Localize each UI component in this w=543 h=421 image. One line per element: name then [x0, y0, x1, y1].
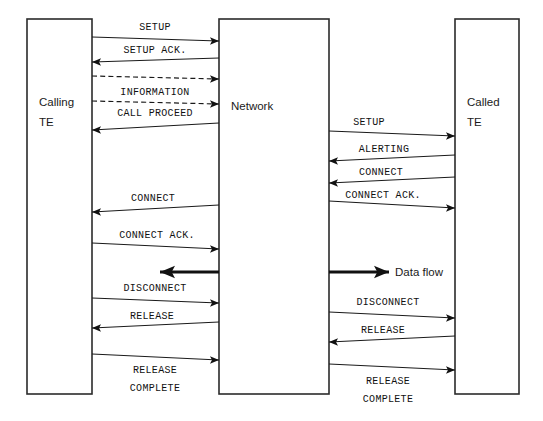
participant-label2-called: TE — [467, 116, 482, 128]
participant-calling: CallingTE — [27, 19, 92, 394]
message-label-m14: RELEASE — [130, 311, 174, 322]
message-line-m20 — [329, 364, 455, 370]
message-m16: RELEASE — [133, 365, 177, 376]
message-m19: RELEASE — [329, 325, 455, 346]
message-m7: SETUP — [329, 117, 455, 140]
message-label-m2: SETUP ACK. — [123, 45, 186, 56]
message-label-m16: RELEASE — [133, 365, 177, 376]
message-m8: ALERTING — [329, 144, 455, 165]
message-label-m10: CONNECT — [131, 193, 175, 204]
message-m4: INFORMATION — [120, 87, 189, 98]
participant-network: Network — [219, 19, 329, 394]
message-label-m4: INFORMATION — [120, 87, 189, 98]
participant-label2-calling: TE — [39, 116, 54, 128]
message-line-m19 — [329, 336, 455, 342]
message-line-m6 — [92, 123, 219, 130]
message-label-m12: CONNECT ACK. — [119, 230, 195, 241]
participant-label-called: Called — [467, 96, 500, 108]
message-label-m18: DISCONNECT — [356, 297, 419, 308]
message-line-m14 — [92, 322, 219, 328]
message-label-m17: COMPLETE — [130, 383, 180, 394]
message-m2: SETUP ACK. — [92, 45, 219, 66]
message-m11: CONNECT ACK. — [329, 190, 455, 212]
message-line-m13 — [92, 298, 219, 303]
message-line-m2 — [92, 58, 219, 62]
message-line-m1 — [92, 37, 219, 41]
message-m20 — [329, 364, 455, 374]
message-m12: CONNECT ACK. — [92, 230, 219, 253]
message-label-m11: CONNECT ACK. — [345, 190, 421, 201]
message-m1: SETUP — [92, 22, 219, 45]
message-line-m7 — [329, 131, 455, 136]
participant-boxes-layer: CallingTENetworkCalledTE — [27, 19, 519, 394]
message-label-m13: DISCONNECT — [123, 283, 186, 294]
participant-called: CalledTE — [455, 19, 519, 394]
participant-label-network: Network — [231, 100, 273, 112]
message-label-m22: COMPLETE — [363, 394, 413, 405]
message-m21: RELEASE — [366, 376, 410, 387]
participant-box-called — [455, 19, 519, 394]
message-m15 — [92, 354, 219, 364]
message-label-m6: CALL PROCEED — [117, 108, 193, 119]
message-label-m8: ALERTING — [359, 144, 409, 155]
message-m18: DISCONNECT — [329, 297, 455, 322]
message-label-m7: SETUP — [353, 117, 385, 128]
message-label-m19: RELEASE — [361, 325, 405, 336]
message-m6: CALL PROCEED — [92, 108, 219, 134]
message-line-m3 — [92, 76, 219, 79]
message-m9: CONNECT — [329, 167, 455, 187]
call-flow-diagram: CallingTENetworkCalledTE SETUPSETUP ACK.… — [0, 0, 543, 421]
participant-box-calling — [27, 19, 92, 394]
message-m3 — [92, 75, 219, 83]
data-flow-df-left — [160, 266, 219, 279]
message-m22: COMPLETE — [363, 394, 413, 405]
message-label-m1: SETUP — [139, 22, 171, 33]
message-line-m12 — [92, 243, 219, 249]
message-m17: COMPLETE — [130, 383, 180, 394]
message-m13: DISCONNECT — [92, 283, 219, 307]
message-m10: CONNECT — [92, 193, 219, 216]
message-line-m18 — [329, 312, 455, 318]
message-line-m10 — [92, 205, 219, 212]
message-label-m21: RELEASE — [366, 376, 410, 387]
message-line-m8 — [329, 155, 455, 161]
data-flow-df-right: Data flow — [329, 266, 444, 279]
message-line-m5 — [92, 101, 219, 104]
data-flow-label: Data flow — [395, 266, 444, 278]
sequence-diagram-canvas: CallingTENetworkCalledTE SETUPSETUP ACK.… — [0, 0, 543, 421]
message-line-m11 — [329, 201, 455, 208]
participant-label-calling: Calling — [39, 96, 74, 108]
message-m14: RELEASE — [92, 311, 219, 332]
message-m5 — [92, 100, 219, 108]
message-label-m9: CONNECT — [359, 167, 403, 178]
participant-box-network — [219, 19, 329, 394]
message-line-m15 — [92, 354, 219, 360]
